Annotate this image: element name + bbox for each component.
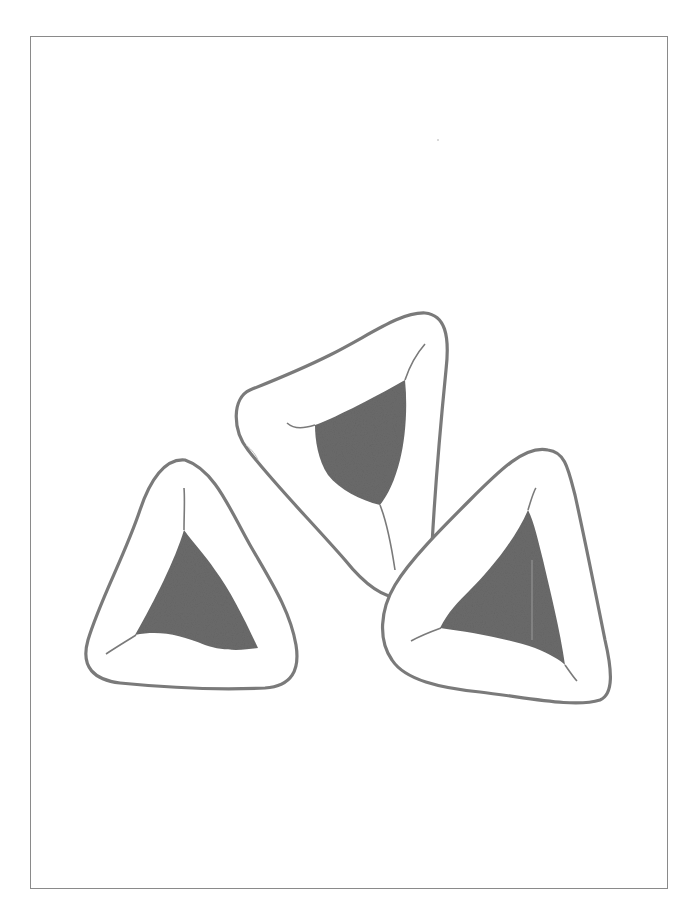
pastry-illustration — [0, 0, 695, 914]
scan-speck — [437, 139, 439, 141]
left-pastry — [86, 460, 297, 689]
